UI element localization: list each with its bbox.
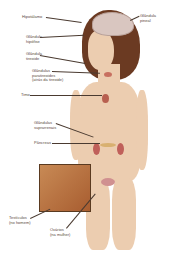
leader-hipotalamo xyxy=(46,17,82,23)
thymus xyxy=(102,94,109,103)
left-arm xyxy=(70,90,82,160)
label-timo: Timo xyxy=(21,93,30,98)
pancreas xyxy=(100,143,116,147)
label-tireoide: Glândula tireoide xyxy=(26,52,42,61)
leader-hipofise xyxy=(40,35,84,38)
right-arm xyxy=(136,90,148,170)
label-pineal: Glândula pineal xyxy=(140,14,156,23)
left-kidney xyxy=(93,143,100,155)
leader-timo xyxy=(30,95,102,96)
right-leg xyxy=(112,178,136,250)
label-pancreas: Pâncreas xyxy=(34,141,51,146)
label-ovarios: Ovários (na mulher) xyxy=(50,228,70,237)
anatomy-figure: Hipotálamo Glândula pineal Glândula hipó… xyxy=(0,0,171,253)
label-testiculos: Testículos (no homem) xyxy=(9,216,31,225)
brain xyxy=(92,12,134,36)
leader-pancreas xyxy=(52,143,100,144)
ovaries xyxy=(101,178,115,186)
label-suprarrenais: Glândulas suprarrenais xyxy=(34,121,56,130)
thyroid xyxy=(104,72,112,77)
leader-pineal xyxy=(130,16,139,21)
label-hipotalamo: Hipotálamo xyxy=(22,15,42,20)
leader-tireoide xyxy=(40,55,85,64)
male-inset xyxy=(39,164,91,212)
right-kidney xyxy=(117,143,124,155)
